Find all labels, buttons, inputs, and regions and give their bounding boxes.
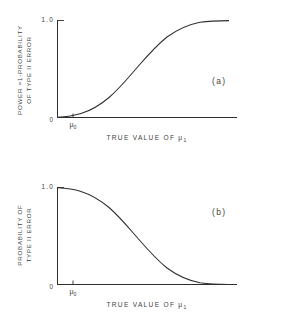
y-axis-label-b-line1: PROBABILITY OF	[16, 185, 25, 285]
plot-area-b: 1.0 0 μ0 TRUE VALUE OF μ1	[57, 187, 237, 285]
y-axis-label-a: POWER =1-PROBABILITY OF TYPE II ERROR	[16, 16, 33, 124]
axes-and-curve-a	[57, 20, 237, 118]
axes-and-curve-b	[57, 187, 237, 285]
mu0-label-a: μ0	[70, 121, 77, 128]
mu0-label-b: μ0	[70, 288, 77, 295]
figure-panel-b: PROBABILITY OF TYPE II ERROR 1.0 0 μ0 TR…	[0, 167, 283, 334]
panel-tag-b: (b)	[212, 207, 227, 217]
panel-tag-a: (a)	[212, 76, 227, 86]
y-axis-label-b-line2: TYPE II ERROR	[25, 185, 34, 285]
y-axis-label-b: PROBABILITY OF TYPE II ERROR	[16, 185, 33, 285]
x-axis-label-b: TRUE VALUE OF μ1	[106, 301, 187, 308]
y-axis-label-a-line1: POWER =1-PROBABILITY	[16, 16, 25, 124]
x-axis-label-a: TRUE VALUE OF μ1	[106, 134, 187, 141]
y-tick-label-top-b: 1.0	[42, 183, 54, 190]
y-axis-label-a-line2: OF TYPE II ERROR	[25, 16, 34, 124]
y-tick-label-bottom-b: 0	[49, 283, 54, 290]
power-curve-a	[58, 21, 230, 118]
beta-curve-b	[58, 188, 230, 285]
plot-area-a: 1.0 0 μ0 TRUE VALUE OF μ1	[57, 20, 237, 118]
figure-panel-a: POWER =1-PROBABILITY OF TYPE II ERROR 1.…	[0, 0, 283, 167]
y-tick-label-top-a: 1.0	[42, 16, 54, 23]
y-tick-label-bottom-a: 0	[49, 116, 54, 123]
